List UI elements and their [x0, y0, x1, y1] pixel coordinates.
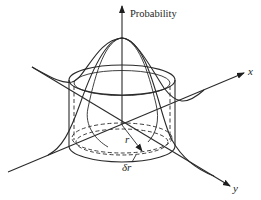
x-axis-label: x [247, 65, 253, 77]
delta-r-leader [132, 155, 136, 162]
thickness-label: δr [122, 161, 132, 173]
bell-meridian-right [122, 38, 158, 142]
probability-axis-label: Probability [130, 8, 177, 19]
x-axis [8, 73, 244, 172]
y-axis-label: y [232, 182, 238, 194]
axes [8, 6, 244, 186]
inner-base-ellipse-dashed [72, 123, 172, 153]
gaussian-shell-diagram: Probability x y r δr [0, 0, 261, 200]
radius-label: r [125, 133, 130, 145]
diagram-canvas: Probability x y r δr [0, 0, 261, 200]
